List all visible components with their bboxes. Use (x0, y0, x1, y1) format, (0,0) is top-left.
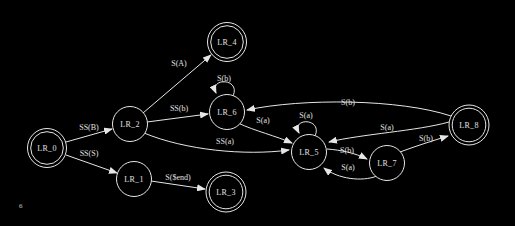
state-node-LR_1: LR_1 (117, 162, 152, 197)
edge-label-LR_7-LR_8: S(b) (419, 134, 433, 143)
state-node-LR_6: LR_6 (210, 95, 245, 130)
state-label-LR_8: LR_8 (459, 121, 478, 130)
edge-label-LR_2-LR_5: SS(a) (216, 137, 234, 146)
state-node-LR_7: LR_7 (370, 146, 405, 181)
state-node-LR_3: LR_3 (206, 172, 246, 212)
edge-label-LR_7-LR_5: S(a) (341, 163, 355, 172)
edge-label-LR_6-LR_6-self: S(b) (217, 74, 231, 83)
edge-label-LR_0-LR_2: SS(B) (79, 123, 99, 132)
edge-label-LR_1-LR_3: S($end) (165, 173, 191, 182)
automaton-graph: SS(B)SS(S)S($end)S(A)SS(b)SS(a)S(b)S(a)S… (0, 0, 515, 226)
state-node-LR_5: LR_5 (292, 135, 327, 170)
edge-label-LR_6-LR_5: S(a) (256, 116, 270, 125)
state-label-LR_4: LR_4 (217, 38, 236, 47)
edge-label-LR_2-LR_4: S(A) (171, 59, 187, 68)
edge-LR_6-LR_5 (238, 123, 292, 143)
state-label-LR_2: LR_2 (120, 120, 139, 129)
edge-label-LR_5-LR_5-self: S(a) (299, 111, 313, 120)
state-diagram: SS(B)SS(S)S($end)S(A)SS(b)SS(a)S(b)S(a)S… (0, 0, 515, 226)
edge-label-LR_8-LR_5: S(a) (380, 123, 394, 132)
edge-label-LR_5-LR_7: S(b) (340, 146, 354, 155)
state-node-LR_4: LR_4 (208, 23, 247, 62)
edge-label-LR_8-LR_6: S(b) (341, 98, 355, 107)
state-label-LR_6: LR_6 (217, 108, 236, 117)
edge-LR_5-LR_5-self (298, 122, 317, 136)
edge-label-LR_2-LR_6: SS(b) (170, 104, 189, 113)
state-label-LR_7: LR_7 (377, 159, 396, 168)
state-node-LR_8: LR_8 (449, 105, 489, 145)
state-node-LR_2: LR_2 (113, 107, 148, 142)
state-label-LR_3: LR_3 (216, 188, 235, 197)
state-label-LR_1: LR_1 (124, 175, 143, 184)
state-label-LR_5: LR_5 (299, 148, 318, 157)
state-label-LR_0: LR_0 (37, 144, 56, 153)
edge-label-LR_0-LR_1: SS(S) (80, 149, 99, 158)
edge-LR_6-LR_6-self (215, 82, 234, 96)
page-number: 6 (19, 202, 23, 210)
state-node-LR_0: LR_0 (28, 129, 67, 168)
edge-LR_2-LR_6 (147, 114, 208, 122)
edge-LR_1-LR_3 (151, 181, 205, 189)
